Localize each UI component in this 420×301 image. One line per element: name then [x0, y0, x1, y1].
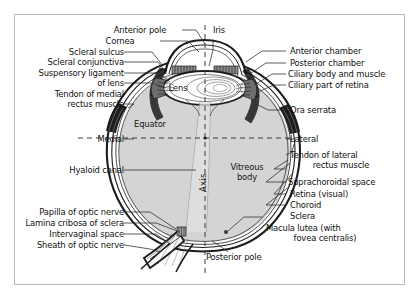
eyeball-centre-point	[203, 136, 206, 139]
label-retina-visual: Retina (visual)	[290, 189, 406, 199]
label-suspensory-ligament: Suspensory ligament	[14, 68, 124, 78]
label-hyaloid-canal: Hyaloid canal	[30, 165, 124, 175]
label-lateral-rectus-muscle: rectus muscle	[290, 160, 392, 170]
label-posterior-pole: Posterior pole	[206, 252, 296, 262]
label-vitreous-body-line2: body	[218, 172, 276, 182]
label-suprachoroidal-space: Suprachoroidal space	[288, 177, 408, 187]
label-macula-lutea: Macula lutea (with	[266, 223, 396, 233]
label-iris: Iris	[193, 25, 225, 35]
label-ciliary-body-muscle: Ciliary body and muscle	[288, 69, 408, 79]
label-scleral-conjunctiva: Scleral conjunctiva	[14, 57, 124, 67]
label-scleral-sulcus: Scleral sulcus	[20, 47, 124, 57]
label-intervaginal-space: Intervaginal space	[18, 229, 124, 239]
label-lamina-cribrosa: Lamina cribosa of sclera	[10, 218, 124, 228]
label-fovea-centralis: fovea centralis)	[266, 233, 384, 243]
label-axis: Axis	[198, 162, 208, 192]
label-sheath-optic-nerve: Sheath of optic nerve	[14, 240, 124, 250]
label-medial: Medial	[54, 134, 124, 144]
label-tendon-lateral-rectus: Tendon of lateral	[290, 150, 402, 160]
label-ciliary-part-retina: Ciliary part of retina	[288, 80, 408, 90]
label-tendon-medial-rectus: Tendon of medial	[24, 89, 124, 99]
label-equator: Equator	[120, 119, 180, 129]
eye-anatomy-figure: Anterior pole Cornea Iris Scleral sulcus…	[0, 0, 420, 301]
label-cornea: Cornea	[78, 36, 162, 46]
label-ora-serrata: Ora serrata	[290, 105, 406, 115]
label-anterior-pole: Anterior pole	[96, 25, 184, 35]
macula-lutea-marker	[224, 230, 228, 234]
label-lens: Lens	[158, 83, 198, 93]
label-rectus-muscle: rectus muscle	[34, 99, 124, 109]
label-papilla-optic-nerve: Papilla of optic nerve	[14, 207, 124, 217]
label-sclera: Sclera	[290, 211, 406, 221]
label-lateral: Lateral	[290, 134, 350, 144]
label-posterior-chamber: Posterior chamber	[290, 58, 406, 68]
label-of-lens: of lens	[54, 78, 124, 88]
label-choroid: Choroid	[290, 200, 406, 210]
label-anterior-chamber: Anterior chamber	[290, 46, 406, 56]
label-vitreous-body: Vitreous	[218, 162, 276, 172]
